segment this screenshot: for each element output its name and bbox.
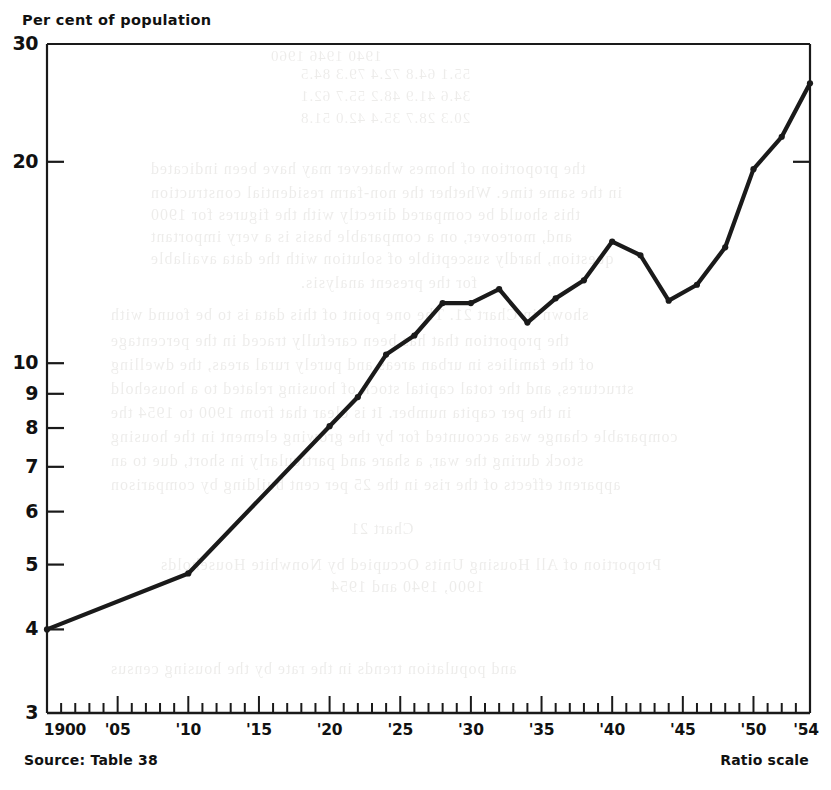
x-tick-label-1935: '35 xyxy=(529,721,555,739)
data-point-1946 xyxy=(694,282,700,288)
x-tick-label-1900: 1900 xyxy=(42,721,88,739)
axes-group xyxy=(47,44,810,713)
data-point-1922 xyxy=(355,394,361,400)
data-point-1948 xyxy=(722,244,728,250)
data-point-1900 xyxy=(44,626,50,632)
data-point-markers xyxy=(44,80,813,632)
data-point-1932 xyxy=(496,286,502,292)
y-tick-label-20: 20 xyxy=(2,150,38,172)
data-point-1924 xyxy=(383,352,389,358)
data-point-1940 xyxy=(609,238,615,244)
y-tick-label-3: 3 xyxy=(2,701,38,723)
data-point-1934 xyxy=(524,319,530,325)
x-tick-label-1905: '05 xyxy=(105,721,131,739)
data-point-1920 xyxy=(326,423,332,429)
y-tick-label-4: 4 xyxy=(2,617,38,639)
x-tick-label-1940: '40 xyxy=(599,721,625,739)
x-tick-label-1920: '20 xyxy=(317,721,343,739)
data-point-1938 xyxy=(581,277,587,283)
x-tick-label-1950: '50 xyxy=(740,721,766,739)
data-point-1954 xyxy=(807,80,813,86)
y-tick-label-8: 8 xyxy=(2,416,38,438)
tick-marks-group xyxy=(47,162,810,713)
data-series-line xyxy=(47,83,810,629)
y-tick-label-30: 30 xyxy=(2,32,38,54)
data-point-1952 xyxy=(779,134,785,140)
x-tick-label-1925: '25 xyxy=(387,721,413,739)
source-note: Source: Table 38 xyxy=(24,752,158,768)
data-point-1944 xyxy=(666,298,672,304)
data-point-1950 xyxy=(750,166,756,172)
y-tick-label-5: 5 xyxy=(2,553,38,575)
data-point-1928 xyxy=(440,300,446,306)
data-point-1942 xyxy=(637,252,643,258)
chart-figure: 1940 1946 196055.1 64.8 72.4 79.3 84.534… xyxy=(0,0,831,790)
data-point-1910 xyxy=(185,570,191,576)
data-point-1930 xyxy=(468,300,474,306)
x-tick-label-1954: '54 xyxy=(793,721,819,739)
ratio-scale-note: Ratio scale xyxy=(720,752,809,768)
y-tick-label-9: 9 xyxy=(2,382,38,404)
y-tick-label-7: 7 xyxy=(2,455,38,477)
x-tick-label-1915: '15 xyxy=(246,721,272,739)
chart-plot-area xyxy=(0,0,831,790)
x-tick-label-1930: '30 xyxy=(458,721,484,739)
data-point-1936 xyxy=(553,295,559,301)
data-point-1926 xyxy=(411,332,417,338)
y-tick-label-6: 6 xyxy=(2,500,38,522)
y-axis-title: Per cent of population xyxy=(22,12,211,28)
y-tick-label-10: 10 xyxy=(2,351,38,373)
x-tick-label-1910: '10 xyxy=(175,721,201,739)
x-tick-label-1945: '45 xyxy=(670,721,696,739)
